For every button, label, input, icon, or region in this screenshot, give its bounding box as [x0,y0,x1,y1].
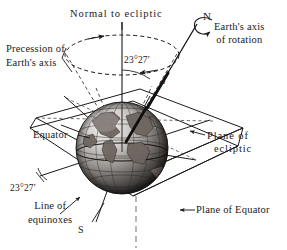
precession-line2: Earth's axis [6,57,57,68]
label-plane-of-equator: Plane of Equator [196,204,270,216]
label-obliquity-bottom: 23°27′ [10,183,36,194]
earths-axis-line2: of rotation [214,33,265,46]
precession-line1: Precession of [6,43,65,54]
label-earths-axis-of-rotation: Earth's axis of rotation [214,20,265,46]
label-precession-of-earths-axis: Precession of Earth's axis [6,42,65,69]
line-of-equinoxes-line1: Line of [34,200,66,211]
label-north-pole: N [203,10,211,22]
label-normal-to-ecliptic: Normal to ecliptic [70,8,163,20]
obliquity-arc-bottom [36,168,47,182]
label-line-of-equinoxes: Line of equinoxes [28,199,72,226]
label-south-pole: S [78,224,84,235]
label-equator: Equator [33,129,68,141]
label-angular-velocity: ω [160,78,166,86]
line-of-equinoxes-line2: equinoxes [28,214,72,225]
earths-axis-line1: Earth's axis [214,21,265,32]
plane-of-ecliptic-line2: ecliptic [207,142,252,155]
label-plane-of-ecliptic: Plane of ecliptic [207,129,252,155]
label-obliquity-top: 23°27′ [124,55,150,66]
precession-diagram-figure: Normal to ecliptic N Earth's axis of rot… [0,0,287,250]
plane-of-ecliptic-line1: Plane of [207,130,249,141]
